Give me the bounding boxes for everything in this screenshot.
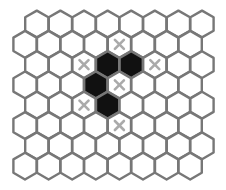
hex-cell[interactable] — [131, 153, 154, 180]
hex-cell[interactable] — [61, 153, 84, 180]
hex-cell[interactable] — [37, 153, 60, 180]
hex-game-board — [0, 0, 226, 190]
hex-cell[interactable] — [108, 153, 131, 180]
hex-cells — [13, 11, 213, 180]
hex-cell[interactable] — [155, 153, 178, 180]
hex-cell[interactable] — [84, 153, 107, 180]
hex-cell[interactable] — [13, 153, 36, 180]
hex-cell[interactable] — [179, 153, 202, 180]
